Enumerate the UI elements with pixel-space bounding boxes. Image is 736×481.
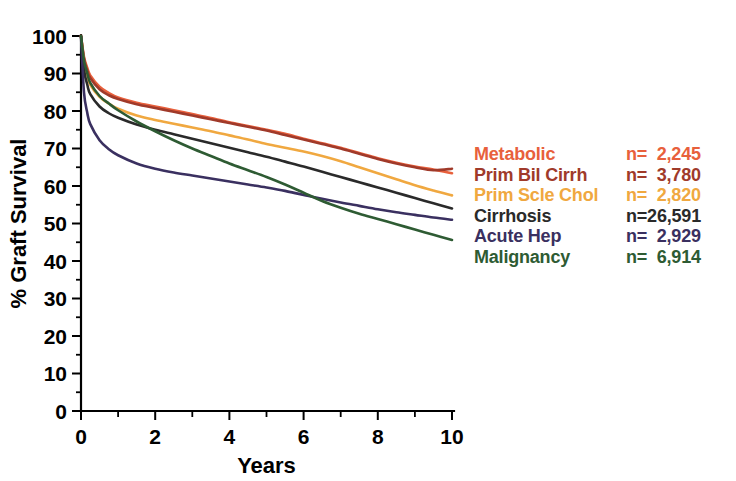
y-tick-label: 60: [44, 175, 67, 198]
y-tick-label: 50: [44, 212, 67, 235]
legend-label-prim-bil-cirrh: Prim Bil Cirrh: [474, 165, 626, 186]
x-axis-tick-labels: 0246810: [75, 425, 464, 448]
chart-legend: Metabolic n= 2,245 Prim Bil Cirrh n= 3,7…: [474, 144, 732, 267]
y-tick-label: 90: [44, 62, 67, 85]
y-tick-label: 80: [44, 100, 67, 123]
legend-row: Malignancy n= 6,914: [474, 247, 732, 268]
y-tick-label: 0: [55, 400, 67, 423]
axes: [81, 35, 454, 411]
x-tick-label: 6: [298, 425, 310, 448]
legend-row: Prim Scle Chol n= 2,820: [474, 185, 732, 206]
x-axis-title: Years: [237, 453, 296, 478]
y-tick-label: 10: [44, 362, 67, 385]
y-axis-title: % Graft Survival: [6, 139, 31, 309]
x-tick-label: 0: [75, 425, 87, 448]
y-tick-label: 70: [44, 137, 67, 160]
y-tick-label: 20: [44, 325, 67, 348]
x-tick-label: 10: [440, 425, 463, 448]
legend-label-metabolic: Metabolic: [474, 144, 626, 165]
x-tick-label: 2: [149, 425, 161, 448]
legend-row: Metabolic n= 2,245: [474, 144, 732, 165]
y-tick-label: 30: [44, 287, 67, 310]
legend-count-cirrhosis: n=26,591: [626, 206, 701, 227]
legend-count-prim-bil-cirrh: n= 3,780: [626, 165, 701, 186]
legend-label-cirrhosis: Cirrhosis: [474, 206, 626, 227]
legend-label-malignancy: Malignancy: [474, 247, 626, 268]
y-axis-tick-labels: 0102030405060708090100: [32, 25, 67, 423]
chart-page: 0102030405060708090100 0246810 Years % G…: [0, 0, 736, 481]
y-tick-label: 100: [32, 25, 67, 48]
axis-ticks: [72, 36, 452, 420]
y-tick-label: 40: [44, 250, 67, 273]
legend-count-metabolic: n= 2,245: [626, 144, 701, 165]
legend-label-acute-hep: Acute Hep: [474, 226, 626, 247]
legend-row: Prim Bil Cirrh n= 3,780: [474, 165, 732, 186]
legend-row: Cirrhosis n=26,591: [474, 206, 732, 227]
series-line-prim-bil-cirrh: [81, 36, 452, 170]
x-tick-label: 4: [224, 425, 236, 448]
legend-count-acute-hep: n= 2,929: [626, 226, 701, 247]
series-line-malignancy: [81, 36, 452, 240]
legend-count-prim-scle-chol: n= 2,820: [626, 185, 701, 206]
legend-count-malignancy: n= 6,914: [626, 247, 701, 268]
series-line-prim-scle-chol: [81, 36, 452, 195]
legend-label-prim-scle-chol: Prim Scle Chol: [474, 185, 626, 206]
series-lines: [81, 36, 452, 240]
x-tick-label: 8: [372, 425, 384, 448]
legend-row: Acute Hep n= 2,929: [474, 226, 732, 247]
